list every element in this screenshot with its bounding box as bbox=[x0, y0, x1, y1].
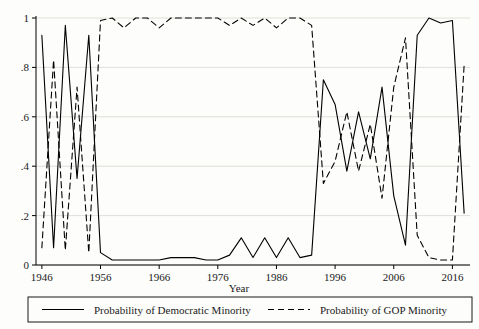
chart-legend: Probability of Democratic MinorityProbab… bbox=[28, 297, 472, 322]
legend-label-0: Probability of Democratic Minority bbox=[94, 304, 251, 316]
x-tick-label-1: 1956 bbox=[90, 271, 113, 283]
x-tick-label-4: 1986 bbox=[265, 271, 288, 283]
y-tick-label-4: .8 bbox=[21, 61, 30, 73]
x-tick-label-5: 1996 bbox=[324, 271, 347, 283]
chart-figure: 0.2.4.6.81194619561966197619861996200620… bbox=[0, 0, 479, 329]
x-axis-title: Year bbox=[229, 282, 250, 294]
y-tick-label-5: 1 bbox=[24, 12, 30, 24]
y-tick-label-1: .2 bbox=[21, 210, 29, 222]
y-tick-label-3: .6 bbox=[21, 111, 30, 123]
series-line-0 bbox=[42, 18, 464, 260]
x-tick-label-0: 1946 bbox=[31, 271, 54, 283]
x-tick-label-3: 1976 bbox=[207, 271, 230, 283]
gridlines bbox=[36, 18, 470, 265]
axis-layer bbox=[32, 16, 470, 269]
x-tick-label-6: 2006 bbox=[383, 271, 406, 283]
y-tick-label-2: .4 bbox=[21, 160, 30, 172]
chart-svg: 0.2.4.6.81194619561966197619861996200620… bbox=[0, 0, 479, 329]
legend-label-1: Probability of GOP Minority bbox=[320, 304, 448, 316]
y-tick-label-0: 0 bbox=[24, 259, 30, 271]
x-tick-label-2: 1966 bbox=[148, 271, 171, 283]
x-tick-label-7: 2016 bbox=[441, 271, 464, 283]
plot-area: 0.2.4.6.81194619561966197619861996200620… bbox=[0, 0, 479, 329]
data-series-layer bbox=[42, 18, 464, 260]
